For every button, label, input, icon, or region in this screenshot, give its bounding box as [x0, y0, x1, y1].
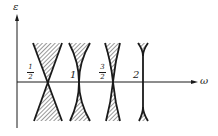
tongue-label-half: 1 2 — [27, 64, 34, 81]
y-axis-label: ε — [13, 2, 18, 12]
tongue-label-three-halves: 3 2 — [99, 64, 106, 81]
tongue-label-one: 1 — [70, 70, 76, 80]
x-axis-arrow-icon — [191, 80, 198, 84]
y-axis-arrow-icon — [15, 14, 19, 21]
y-axis — [15, 14, 19, 128]
x-axis — [17, 80, 198, 84]
x-axis-label: ω — [200, 76, 208, 86]
tongue-label-two: 2 — [133, 70, 139, 80]
